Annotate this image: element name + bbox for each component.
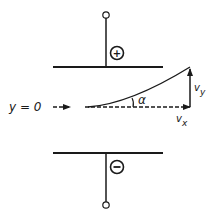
- bottom-terminal-node-icon: [103, 202, 109, 208]
- bottom-terminal: [103, 153, 109, 208]
- angle-arc: [132, 98, 133, 107]
- top-terminal: [103, 12, 109, 67]
- vy-label: vy: [194, 82, 206, 97]
- axis-label: y = 0: [8, 100, 42, 114]
- vx-label: vx: [176, 113, 188, 128]
- top-terminal-node-icon: [103, 12, 109, 18]
- plus-symbol: +: [113, 48, 121, 59]
- angle-label: α: [138, 93, 146, 107]
- minus-charge-icon: [111, 161, 124, 174]
- plus-charge-icon: +: [111, 47, 124, 60]
- deflection-diagram: + y = 0 α vy vx: [0, 0, 216, 211]
